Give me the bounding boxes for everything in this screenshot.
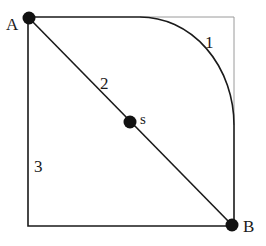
- path-2-label: 2: [100, 74, 109, 93]
- path-3-label: 3: [34, 157, 43, 176]
- point-a-label: A: [6, 15, 19, 34]
- path-1-label: 1: [205, 33, 214, 52]
- point-b-label: B: [243, 217, 254, 236]
- point-s-label: s: [140, 111, 146, 127]
- path-diagram: A B s 1 2 3: [0, 0, 266, 246]
- point-s-marker: [124, 116, 137, 129]
- point-b-marker: [226, 219, 239, 232]
- point-a-marker: [23, 12, 36, 25]
